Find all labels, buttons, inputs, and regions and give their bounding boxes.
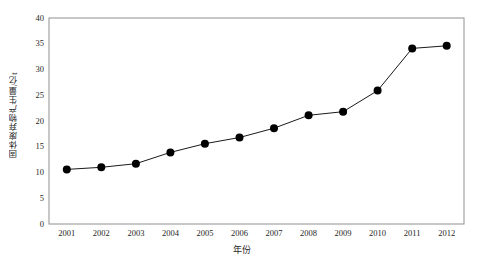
data-point-2007 [270, 124, 278, 132]
x-axis-title: 年份 [0, 243, 483, 256]
data-point-2004 [166, 148, 174, 156]
data-point-2002 [97, 163, 105, 171]
plot-frame [49, 18, 464, 224]
data-point-2003 [132, 160, 140, 168]
data-point-2010 [374, 87, 382, 95]
data-point-2012 [443, 42, 451, 50]
data-point-2005 [201, 140, 209, 148]
data-point-2006 [236, 134, 244, 142]
data-point-2001 [63, 165, 71, 173]
data-point-2011 [408, 44, 416, 52]
data-point-2008 [305, 111, 313, 119]
x-tick-label-2012: 2012 [427, 228, 467, 238]
line-chart: 固体废弃物产生量/亿t 40 35 30 25 20 15 10 5 0 200… [0, 0, 483, 269]
data-point-2009 [339, 108, 347, 116]
